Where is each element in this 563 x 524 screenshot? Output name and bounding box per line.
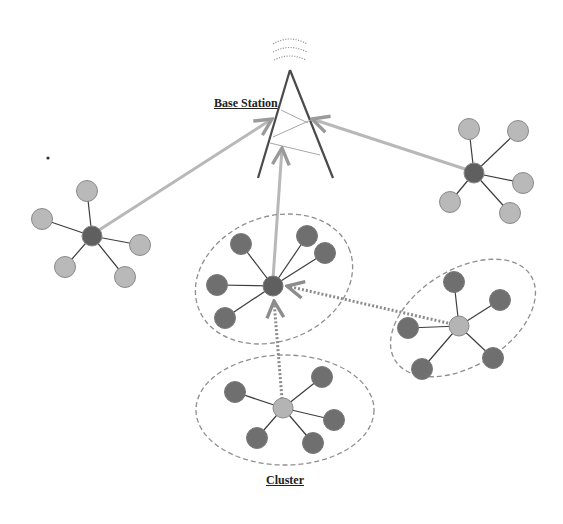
- member-node: [297, 226, 318, 247]
- cluster-label: Cluster: [266, 473, 304, 488]
- right-cluster-group: [398, 272, 511, 380]
- member-node: [459, 119, 480, 140]
- member-node: [440, 192, 461, 213]
- member-node: [324, 410, 345, 431]
- member-node: [247, 428, 268, 449]
- member-node: [115, 267, 136, 288]
- uplink-middle-cluster: [273, 148, 282, 279]
- member-node: [500, 203, 521, 224]
- relay-bottom-to-middle: [274, 301, 282, 399]
- cluster-head-node: [273, 398, 293, 418]
- left-star-group: [32, 181, 151, 288]
- uplink-left-star: [96, 119, 272, 232]
- middle-cluster-group: [207, 226, 336, 329]
- cluster-boundaries: [176, 191, 557, 465]
- member-node: [207, 275, 228, 296]
- member-node: [513, 173, 534, 194]
- uplink-right-star: [312, 119, 468, 170]
- right-star-group: [440, 119, 534, 224]
- base-station-label: Base Station: [214, 96, 278, 111]
- member-node: [412, 359, 433, 380]
- member-node: [315, 243, 336, 264]
- bottom-cluster-group: [225, 367, 345, 454]
- cluster-head-node: [82, 226, 102, 246]
- member-node: [231, 234, 252, 255]
- member-node: [444, 272, 465, 293]
- cluster-head-node: [263, 276, 283, 296]
- member-node: [312, 367, 333, 388]
- member-node: [483, 348, 504, 369]
- signal-waves-icon: [273, 39, 307, 60]
- cluster-head-node: [464, 163, 484, 183]
- member-node: [77, 181, 98, 202]
- member-node: [55, 257, 76, 278]
- member-node: [490, 290, 511, 311]
- member-node: [398, 318, 419, 339]
- member-node: [225, 382, 246, 403]
- member-node: [303, 433, 324, 454]
- relay-links: [274, 286, 452, 399]
- stray-dot: [46, 156, 49, 159]
- member-node: [32, 209, 53, 230]
- member-node: [215, 308, 236, 329]
- cluster-head-node: [449, 316, 469, 336]
- relay-right-to-middle: [287, 286, 452, 324]
- uplinks: [96, 119, 468, 279]
- member-node: [508, 121, 529, 142]
- wsn-cluster-diagram: [0, 0, 563, 524]
- member-node: [130, 235, 151, 256]
